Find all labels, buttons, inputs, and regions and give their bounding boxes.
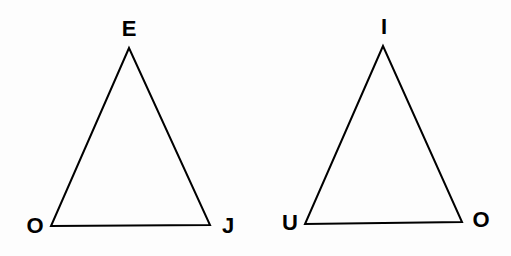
label-left-bottom-left: O — [26, 215, 43, 237]
label-right-bottom-left: U — [282, 212, 298, 234]
triangle-right — [305, 46, 462, 224]
label-left-bottom-right: J — [222, 215, 234, 237]
triangles-svg — [0, 0, 511, 256]
label-right-top: I — [381, 16, 387, 38]
label-right-bottom-right: O — [472, 209, 489, 231]
label-left-top: E — [122, 18, 137, 40]
triangle-left — [51, 48, 210, 226]
diagram-canvas: E O J I U O — [0, 0, 511, 256]
